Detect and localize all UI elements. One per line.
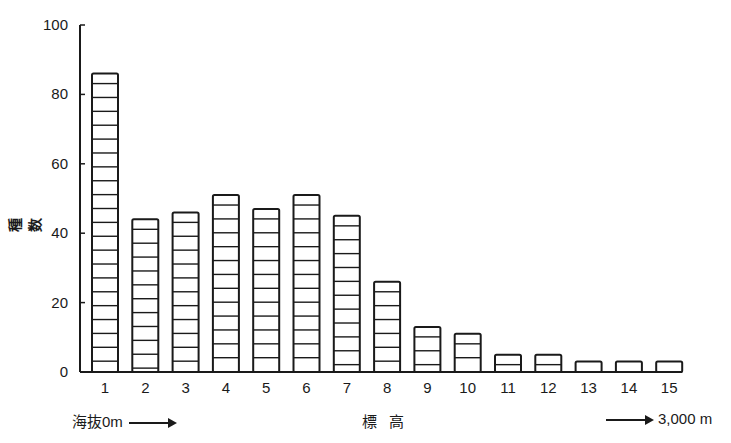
bar xyxy=(535,355,561,372)
right-arrow-icon xyxy=(606,419,652,421)
x-tick-label: 3 xyxy=(181,379,189,396)
bar xyxy=(414,327,440,372)
x-tick-label: 7 xyxy=(343,379,351,396)
bar xyxy=(253,209,279,372)
bar xyxy=(173,212,199,372)
y-tick-label: 80 xyxy=(51,85,68,102)
x-tick-label: 14 xyxy=(621,379,638,396)
x-tick-label: 5 xyxy=(262,379,270,396)
y-tick-label: 60 xyxy=(51,155,68,172)
bar xyxy=(495,355,521,372)
x-tick-label: 11 xyxy=(500,379,516,396)
bar xyxy=(334,216,360,372)
y-axis-label: 種 数 xyxy=(4,200,44,232)
right-arrow-icon xyxy=(129,422,175,424)
x-tick-label: 2 xyxy=(141,379,149,396)
bar xyxy=(132,219,158,372)
y-tick-label: 20 xyxy=(51,294,68,311)
x-tick-label: 8 xyxy=(383,379,391,396)
bars xyxy=(80,74,682,372)
x-tick-label: 6 xyxy=(302,379,310,396)
x-axis-label: 標 高 xyxy=(362,410,408,431)
x-tick-label: 4 xyxy=(222,379,230,396)
x-tick-label: 15 xyxy=(661,379,678,396)
y-tick-label: 0 xyxy=(60,363,68,380)
bar-chart: 020406080100 123456789101112131415 xyxy=(0,0,731,443)
x-tick-label: 1 xyxy=(101,379,109,396)
bar xyxy=(455,334,481,372)
end-annotation-text: 3,000 m xyxy=(658,410,712,427)
bar xyxy=(576,362,602,372)
x-tick-label: 13 xyxy=(580,379,597,396)
bar xyxy=(92,74,118,372)
x-tick-label: 10 xyxy=(459,379,476,396)
x-tick-label: 12 xyxy=(540,379,557,396)
start-annotation: 海抜0m xyxy=(72,410,181,431)
bar xyxy=(616,362,642,372)
y-tick-label: 40 xyxy=(51,224,68,241)
bar xyxy=(374,282,400,372)
start-annotation-text: 海抜0m xyxy=(72,413,123,430)
x-axis-labels: 123456789101112131415 xyxy=(101,379,678,396)
x-tick-label: 9 xyxy=(423,379,431,396)
y-axis: 020406080100 xyxy=(43,16,85,380)
bar xyxy=(656,362,682,372)
y-tick-label: 100 xyxy=(43,16,68,33)
bar xyxy=(213,195,239,372)
bar xyxy=(294,195,320,372)
end-annotation: 3,000 m xyxy=(600,410,712,427)
